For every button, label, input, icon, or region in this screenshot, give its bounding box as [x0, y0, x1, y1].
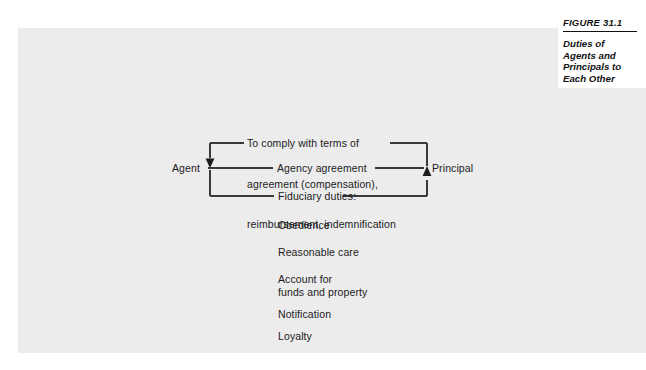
principal-label: Principal: [432, 162, 473, 175]
fiduciary-duty-item: Loyalty: [278, 330, 312, 343]
figure-title-line-4: Each Other: [563, 73, 645, 85]
figure-title: Duties of Agents and Principals to Each …: [563, 38, 645, 84]
figure-divider: [563, 31, 637, 32]
fiduciary-duty-item: Reasonable care: [278, 246, 359, 259]
agent-label: Agent: [172, 162, 200, 175]
figure-number: FIGURE 31.1: [563, 17, 622, 28]
fiduciary-duty-item: Account for funds and property: [278, 273, 367, 299]
principal-duties-line-2: agreement (compensation),: [247, 178, 396, 192]
fiduciary-duty-item: Notification: [278, 308, 331, 321]
figure-caption-box: FIGURE 31.1 Duties of Agents and Princip…: [558, 12, 646, 88]
figure-title-line-3: Principals to: [563, 61, 645, 73]
figure-title-line-2: Agents and: [563, 50, 645, 62]
principal-duties-line-1: To comply with terms of: [247, 137, 396, 151]
fiduciary-duty-item: Obedience: [278, 219, 330, 232]
figure-title-line-1: Duties of: [563, 38, 645, 50]
figure-page: Agent Principal Agency agreement To comp…: [0, 0, 646, 370]
fiduciary-duties-heading: Fiduciary duties:: [278, 190, 356, 203]
principal-duties-text: To comply with terms of agreement (compe…: [247, 110, 396, 259]
